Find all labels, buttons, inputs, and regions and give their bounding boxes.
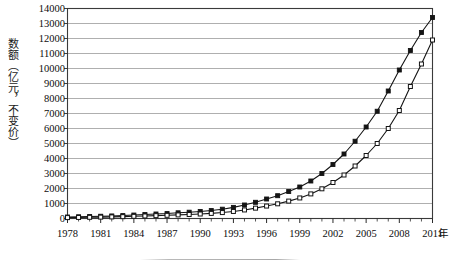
marker-open-square — [132, 214, 136, 218]
x-axis-tick-label: 1978 — [57, 228, 78, 239]
marker-open-square — [176, 213, 180, 217]
marker-filled-square — [242, 203, 246, 207]
x-axis-tick-label: 2005 — [356, 228, 377, 239]
marker-open-square — [320, 187, 324, 191]
marker-filled-square — [231, 205, 235, 209]
x-axis-tick-label: 2002 — [322, 228, 343, 239]
marker-open-square — [110, 215, 114, 219]
marker-filled-square — [254, 200, 258, 204]
marker-open-square — [364, 154, 368, 158]
marker-open-square — [254, 206, 258, 210]
x-axis-tick-label: 1993 — [223, 228, 244, 239]
data-series — [66, 16, 435, 220]
marker-open-square — [143, 214, 147, 218]
marker-filled-square — [419, 31, 423, 35]
x-axis-tick-label: 1984 — [123, 228, 144, 239]
marker-open-square — [276, 202, 280, 206]
marker-open-square — [88, 215, 92, 219]
series-line — [68, 18, 433, 218]
marker-open-square — [353, 164, 357, 168]
x-axis-ticks — [64, 9, 433, 224]
marker-open-square — [231, 209, 235, 213]
marker-open-square — [386, 127, 390, 131]
marker-open-square — [209, 211, 213, 215]
caption-divider — [140, 259, 300, 260]
marker-filled-square — [309, 179, 313, 183]
marker-filled-square — [287, 190, 291, 194]
marker-open-square — [375, 142, 379, 146]
x-axis-tick-label: 1981 — [90, 228, 111, 239]
x-axis-tick-label: 1990 — [190, 228, 211, 239]
marker-open-square — [431, 38, 435, 42]
x-axis-tick-label: 1996 — [256, 228, 277, 239]
marker-open-square — [66, 216, 70, 220]
marker-filled-square — [353, 139, 357, 143]
marker-open-square — [397, 109, 401, 113]
marker-open-square — [419, 62, 423, 66]
marker-filled-square — [298, 185, 302, 189]
marker-open-square — [265, 204, 269, 208]
marker-filled-square — [397, 68, 401, 72]
marker-open-square — [198, 212, 202, 216]
marker-open-square — [154, 214, 158, 218]
marker-filled-square — [276, 194, 280, 198]
marker-filled-square — [386, 89, 390, 93]
chart-figure: 数额（亿元，不变价） 01000200030004000500060007000… — [0, 0, 460, 268]
marker-open-square — [187, 212, 191, 216]
marker-filled-square — [408, 49, 412, 53]
marker-filled-square — [331, 163, 335, 167]
marker-filled-square — [320, 172, 324, 176]
marker-open-square — [342, 173, 346, 177]
marker-open-square — [165, 213, 169, 217]
marker-open-square — [121, 215, 125, 219]
marker-open-square — [220, 211, 224, 215]
marker-open-square — [242, 208, 246, 212]
marker-open-square — [298, 196, 302, 200]
marker-filled-square — [364, 125, 368, 129]
marker-open-square — [77, 215, 81, 219]
x-axis-unit-label: 年 — [438, 228, 448, 239]
marker-filled-square — [342, 152, 346, 156]
x-axis-tick-label: 2008 — [389, 228, 410, 239]
marker-filled-square — [375, 109, 379, 113]
gridlines — [68, 9, 433, 204]
x-axis-tick-label: 1987 — [157, 228, 178, 239]
marker-filled-square — [431, 16, 435, 20]
marker-open-square — [287, 199, 291, 203]
x-axis-tick-label: 1999 — [289, 228, 310, 239]
marker-open-square — [408, 85, 412, 89]
marker-open-square — [309, 192, 313, 196]
marker-filled-square — [265, 197, 269, 201]
x-axis-tick-labels: 1978198119841987199019931996199920022005… — [0, 228, 460, 248]
marker-open-square — [331, 181, 335, 185]
marker-open-square — [99, 215, 103, 219]
